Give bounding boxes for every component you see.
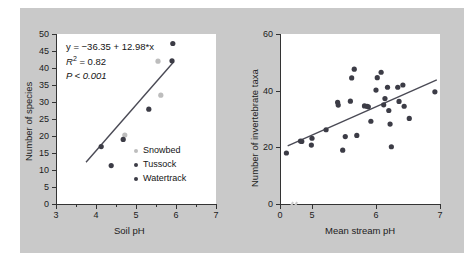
data-point xyxy=(343,134,348,139)
data-point xyxy=(432,89,437,94)
data-point xyxy=(400,82,405,87)
data-point xyxy=(170,41,175,46)
data-point xyxy=(155,59,160,64)
data-point xyxy=(146,107,151,112)
data-layer-right xyxy=(242,8,464,253)
axis-break-mark xyxy=(294,202,297,208)
data-point xyxy=(122,132,127,137)
data-point xyxy=(299,139,304,144)
data-layer-left xyxy=(20,8,242,253)
chart-panel-right: 02040600567 Number of invertebrate taxa … xyxy=(242,8,464,253)
data-point xyxy=(309,142,314,147)
data-point xyxy=(349,75,354,80)
data-point xyxy=(368,119,373,124)
data-point xyxy=(385,85,390,90)
data-point xyxy=(395,85,400,90)
data-point xyxy=(169,58,174,63)
data-point xyxy=(340,148,345,153)
data-point xyxy=(158,93,163,98)
data-point xyxy=(387,122,392,127)
data-point xyxy=(354,133,359,138)
figure-container: 0510152025303540455034567 Number of spec… xyxy=(20,8,464,253)
data-point xyxy=(386,108,391,113)
data-point xyxy=(389,144,394,149)
data-point xyxy=(323,127,328,132)
chart-panel-left: 0510152025303540455034567 Number of spec… xyxy=(20,8,242,253)
regression-line xyxy=(288,80,437,146)
data-point xyxy=(407,116,412,121)
data-point xyxy=(109,163,114,168)
data-point xyxy=(396,99,401,104)
data-point xyxy=(284,150,289,155)
axis-break-mark xyxy=(290,202,293,208)
data-point xyxy=(99,144,104,149)
data-point xyxy=(379,70,384,75)
data-point xyxy=(382,96,387,101)
data-point xyxy=(402,104,407,109)
data-point xyxy=(121,137,126,142)
data-point xyxy=(348,99,353,104)
data-point xyxy=(352,67,357,72)
data-point xyxy=(309,136,314,141)
data-point xyxy=(381,102,386,107)
data-point xyxy=(373,88,378,93)
data-point xyxy=(366,104,371,109)
data-point xyxy=(375,75,380,80)
data-point xyxy=(336,103,341,108)
